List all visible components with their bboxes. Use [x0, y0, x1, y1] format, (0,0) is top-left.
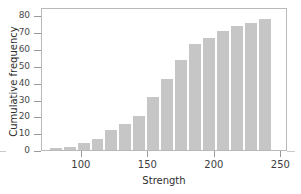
bar: [146, 97, 160, 150]
scan-edge-mark-bottom-right: [287, 151, 295, 152]
y-tick-mark: [34, 101, 41, 102]
y-tick-mark: [34, 50, 41, 51]
x-tick-mark: [147, 151, 148, 157]
y-tick-mark: [34, 16, 41, 17]
bar: [77, 143, 91, 150]
y-tick-mark: [34, 134, 41, 135]
bar: [63, 147, 77, 150]
y-tick-mark: [34, 33, 41, 34]
y-tick-mark: [34, 151, 41, 152]
x-tick-mark: [280, 151, 281, 157]
bar: [202, 38, 216, 150]
x-tick-mark: [214, 151, 215, 157]
y-tick-mark: [34, 84, 41, 85]
x-axis-title: Strength: [41, 175, 287, 186]
bar: [230, 26, 244, 150]
x-tick-label: 250: [260, 159, 300, 170]
chart-screenshot: 01020304050607080 100150200250 Cumulativ…: [0, 0, 301, 194]
bar: [104, 130, 118, 150]
bar: [188, 44, 202, 150]
bar: [160, 79, 174, 151]
bar: [91, 139, 105, 150]
bar: [118, 124, 132, 150]
x-tick-label: 200: [194, 159, 234, 170]
x-tick-label: 150: [127, 159, 167, 170]
y-tick-mark: [34, 67, 41, 68]
y-tick-mark: [34, 117, 41, 118]
y-axis-title: Cumulative frequency: [8, 7, 19, 157]
bar-series: [42, 9, 286, 150]
bar: [174, 60, 188, 150]
bar: [244, 23, 258, 150]
bar: [258, 19, 272, 150]
scan-edge-mark-left: [0, 151, 6, 152]
bar: [216, 31, 230, 150]
plot-area: [41, 8, 287, 151]
bar: [132, 116, 146, 150]
x-tick-label: 100: [61, 159, 101, 170]
bar: [49, 148, 63, 150]
x-tick-mark: [81, 151, 82, 157]
